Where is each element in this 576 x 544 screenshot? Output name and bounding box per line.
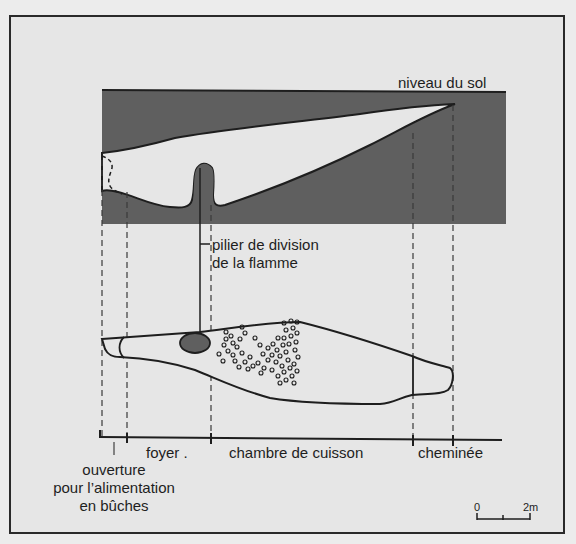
opening-label-line2: pour l’alimentation bbox=[24, 479, 204, 496]
ground-level-label: niveau du sol bbox=[398, 74, 486, 91]
scale-start-label: 0 bbox=[474, 499, 480, 516]
pillar-plan bbox=[180, 333, 210, 353]
opening-label-line1: ouverture bbox=[34, 461, 194, 478]
foyer-label: foyer . bbox=[146, 444, 188, 461]
pillar-label-line1: pilier de division bbox=[212, 236, 319, 253]
section-view bbox=[102, 90, 506, 224]
pillar-label-line2: de la flamme bbox=[212, 254, 298, 271]
chamber-label: chambre de cuisson bbox=[229, 444, 363, 461]
chimney-label: cheminée bbox=[418, 444, 483, 461]
scale-end-label: 2m bbox=[523, 499, 538, 516]
opening-label-line3: en bûches bbox=[34, 497, 194, 514]
plan-view bbox=[102, 319, 453, 404]
